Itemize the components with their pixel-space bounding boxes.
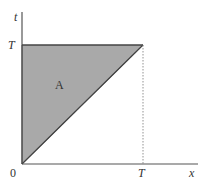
region-diagram: t T 0 T x A xyxy=(0,0,206,183)
y-tick-label-T: T xyxy=(8,38,16,52)
x-tick-label-T: T xyxy=(138,166,146,180)
t-axis-label: t xyxy=(14,10,18,24)
region-a-label: A xyxy=(55,78,64,92)
x-axis-label: x xyxy=(188,166,195,180)
origin-label: 0 xyxy=(10,166,16,180)
